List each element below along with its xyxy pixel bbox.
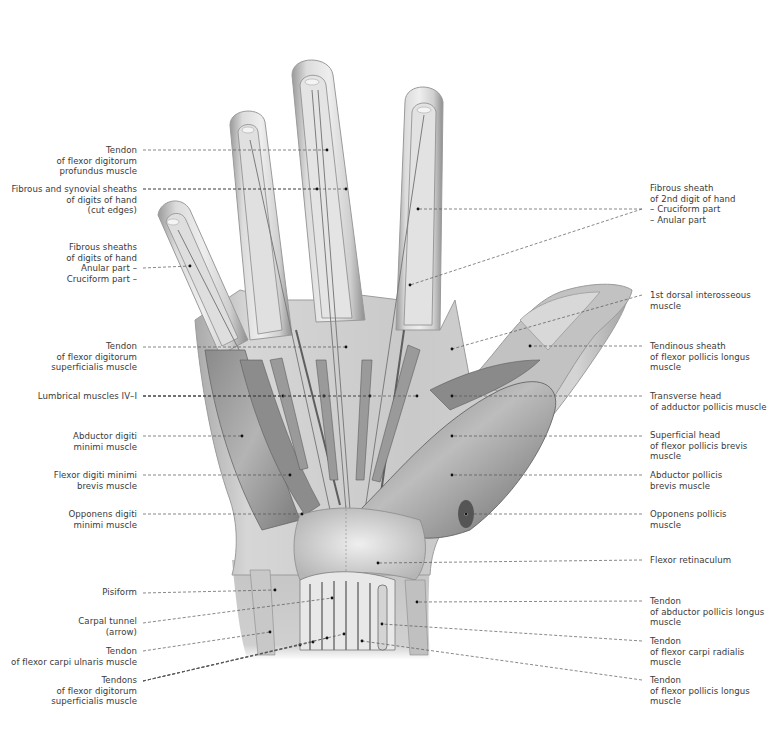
label-line: of flexor digitorum: [51, 352, 137, 363]
label-tendon-fcu: Tendonof flexor carpi ulnaris muscle: [11, 646, 137, 667]
label-line: of adductor pollicis muscle: [650, 402, 767, 413]
label-line: minimi muscle: [68, 520, 137, 531]
label-carpal-tunnel: Carpal tunnel(arrow): [78, 616, 137, 637]
label-abductor-pollicis-brevis: Abductor pollicisbrevis muscle: [650, 470, 722, 491]
label-line: muscle: [650, 520, 727, 531]
pointer-dot: [189, 265, 192, 268]
label-line: Fibrous and synovial sheaths: [11, 184, 137, 195]
label-line: brevis muscle: [54, 481, 137, 492]
pointer-dot: [274, 589, 277, 592]
label-line: 1st dorsal interosseous: [650, 290, 751, 301]
label-line: Superficial head: [650, 430, 747, 441]
pointer-dot: [381, 623, 384, 626]
label-line: muscle: [650, 362, 750, 373]
label-tendon-fdp: Tendonof flexor digitorumprofundus muscl…: [56, 145, 137, 177]
pointer-dot: [345, 346, 348, 349]
label-line: (cut edges): [11, 205, 137, 216]
label-line: Tendon: [11, 646, 137, 657]
label-pisiform: Pisiform: [102, 587, 137, 598]
label-opponens-pollicis: Opponens pollicismuscle: [650, 509, 727, 530]
pointer-dot: [316, 188, 319, 191]
finger-middle: [292, 60, 365, 322]
label-line: of flexor pollicis longus: [650, 686, 750, 697]
leader-opponens-pollicis: [465, 513, 642, 516]
label-line: Tendon: [56, 145, 137, 156]
finger-index: [396, 87, 443, 330]
pointer-dot: [241, 435, 244, 438]
label-line: of flexor digitorum: [51, 686, 137, 697]
leader-tendon-apl: [416, 601, 642, 604]
label-lumbrical-muscles: Lumbrical muscles IV–I: [38, 391, 137, 402]
label-line: brevis muscle: [650, 481, 722, 492]
label-fibrous-sheath-2nd-digit: Fibrous sheathof 2nd digit of hand– Cruc…: [650, 183, 736, 225]
label-line: Opponens pollicis: [650, 509, 727, 520]
pointer-dot: [326, 149, 329, 152]
label-line: of flexor carpi ulnaris muscle: [11, 657, 137, 668]
pointer-dot: [451, 395, 454, 398]
pointer-dot: [345, 188, 348, 191]
pointer-dot: [416, 395, 419, 398]
label-line: Tendon: [650, 596, 764, 607]
label-line: of abductor pollicis longus: [650, 607, 764, 618]
label-line: (arrow): [78, 627, 137, 638]
label-transverse-head-adductor: Transverse headof adductor pollicis musc…: [650, 391, 767, 412]
label-abductor-digiti-minimi: Abductor digitiminimi muscle: [73, 431, 137, 452]
label-line: muscle: [650, 617, 764, 628]
label-line: of 2nd digit of hand: [650, 194, 736, 205]
label-line: muscle: [650, 451, 747, 462]
pointer-dot: [451, 474, 454, 477]
label-line: Carpal tunnel: [78, 616, 137, 627]
label-line: Fibrous sheath: [650, 183, 736, 194]
label-line: Pisiform: [102, 587, 137, 598]
pointer-dot: [326, 637, 329, 640]
pointer-dot: [451, 435, 454, 438]
label-line: Opponens digiti: [68, 509, 137, 520]
label-line: Lumbrical muscles IV–I: [38, 391, 137, 402]
label-line: of flexor pollicis brevis: [650, 441, 747, 452]
label-line: Flexor digiti minimi: [54, 470, 137, 481]
label-first-dorsal-interosseous: 1st dorsal interosseousmuscle: [650, 290, 751, 311]
label-fibrous-synovial-sheaths: Fibrous and synovial sheathsof digits of…: [11, 184, 137, 216]
label-line: Cruciform part –: [66, 274, 137, 285]
label-line: profundus muscle: [56, 166, 137, 177]
label-line: of flexor pollicis longus: [650, 352, 750, 363]
label-line: Tendinous sheath: [650, 341, 750, 352]
pointer-dot: [409, 284, 412, 287]
label-line: of digits of hand: [66, 253, 137, 264]
pointer-dot: [377, 562, 380, 565]
label-line: of flexor carpi radialis: [650, 647, 744, 658]
label-fibrous-sheaths-digits: Fibrous sheathsof digits of handAnular p…: [66, 242, 137, 284]
label-line: Fibrous sheaths: [66, 242, 137, 253]
label-line: Tendon: [650, 636, 744, 647]
pointer-dot: [289, 474, 292, 477]
label-line: – Anular part: [650, 215, 736, 226]
label-line: superficialis muscle: [51, 696, 137, 707]
label-opponens-digiti-minimi: Opponens digitiminimi muscle: [68, 509, 137, 530]
label-line: muscle: [650, 301, 751, 312]
label-flexor-digiti-minimi-brevis: Flexor digiti minimibrevis muscle: [54, 470, 137, 491]
label-line: Abductor digiti: [73, 431, 137, 442]
pointer-dot: [417, 208, 420, 211]
pointer-dot: [331, 597, 334, 600]
pointer-dot: [416, 601, 419, 604]
label-superficial-head-fpb: Superficial headof flexor pollicis brevi…: [650, 430, 747, 462]
pointer-dot: [269, 631, 272, 634]
label-line: – Cruciform part: [650, 204, 736, 215]
label-line: muscle: [650, 696, 750, 707]
pointer-dot: [465, 513, 468, 516]
label-line: of flexor digitorum: [56, 156, 137, 167]
label-tendon-apl: Tendonof abductor pollicis longusmuscle: [650, 596, 764, 628]
pointer-dot: [343, 633, 346, 636]
label-line: minimi muscle: [73, 442, 137, 453]
label-line: Tendon: [650, 675, 750, 686]
pointer-dot: [301, 513, 304, 516]
label-line: Flexor retinaculum: [650, 555, 731, 566]
label-line: of digits of hand: [11, 195, 137, 206]
label-line: Transverse head: [650, 391, 767, 402]
label-tendinous-sheath-fpl: Tendinous sheathof flexor pollicis longu…: [650, 341, 750, 373]
label-line: Tendon: [51, 341, 137, 352]
label-line: Anular part –: [66, 263, 137, 274]
label-line: Tendons: [51, 675, 137, 686]
pointer-dot: [529, 345, 532, 348]
